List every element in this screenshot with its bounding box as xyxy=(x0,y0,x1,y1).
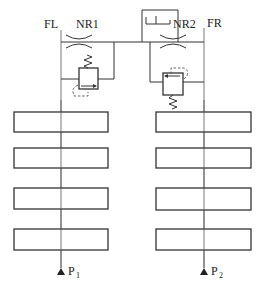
nr1-label: NR1 xyxy=(76,17,99,31)
right-block-4 xyxy=(156,229,251,250)
p1-port-icon xyxy=(57,268,65,275)
p1-subscript: 1 xyxy=(76,271,80,280)
p1-label: P xyxy=(68,264,75,278)
p2-port-icon xyxy=(200,268,208,275)
left-pressure-valve-icon xyxy=(61,42,114,96)
hydraulic-circuit-diagram: FL NR1 NR2 FR xyxy=(0,0,260,287)
right-block-3 xyxy=(156,188,251,210)
fl-label: FL xyxy=(44,17,58,31)
right-pressure-valve-icon xyxy=(150,42,204,109)
p2-label: P xyxy=(211,264,218,278)
right-block-2 xyxy=(156,148,251,168)
right-block-1 xyxy=(156,112,251,132)
nr2-label: NR2 xyxy=(173,17,196,31)
fr-label: FR xyxy=(207,16,222,30)
p2-subscript: 2 xyxy=(219,271,223,280)
